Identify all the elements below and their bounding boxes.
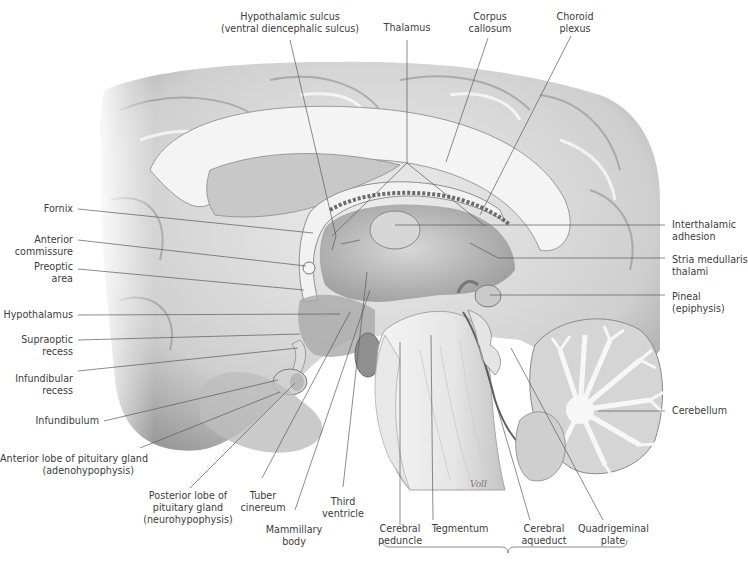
- label-line: Fornix: [0, 203, 73, 215]
- label-line: aqueduct: [520, 535, 568, 547]
- label-line: plate: [578, 535, 648, 547]
- label-line: plexus: [552, 23, 598, 35]
- label-line: Choroid: [552, 11, 598, 23]
- label-line: adhesion: [672, 231, 736, 243]
- label-mammillary-body: Mammillary body: [262, 524, 326, 548]
- label-hypothalamus: Hypothalamus: [0, 309, 73, 321]
- label-posterior-lobe-pituitary: Posterior lobe of pituitary gland (neuro…: [138, 490, 238, 526]
- label-tuber-cinereum: Tuber cinereum: [235, 490, 291, 514]
- label-line: Preoptic: [0, 261, 73, 273]
- label-line: Stria medullaris: [672, 254, 748, 266]
- label-line: recess: [0, 385, 73, 397]
- label-cerebral-peduncle: Cerebral peduncle: [375, 523, 425, 547]
- label-hypothalamic-sulcus: Hypothalamic sulcus (ventral diencephali…: [215, 11, 365, 35]
- label-pineal: Pineal (epiphysis): [672, 291, 725, 315]
- label-line: (ventral diencephalic sulcus): [215, 23, 365, 35]
- label-line: Interthalamic: [672, 219, 736, 231]
- label-line: callosum: [465, 23, 515, 35]
- label-line: Pineal: [672, 291, 725, 303]
- posterior-pituitary: [290, 373, 304, 391]
- label-anterior-commissure: Anterior commissure: [0, 234, 73, 258]
- label-line: Hypothalamic sulcus: [215, 11, 365, 23]
- label-anterior-lobe-pituitary: Anterior lobe of pituitary gland (adenoh…: [0, 453, 134, 477]
- label-line: ventricle: [315, 508, 371, 520]
- label-preoptic-area: Preoptic area: [0, 261, 73, 285]
- label-line: Anterior lobe of pituitary gland: [0, 453, 134, 465]
- artist-signature: Voll: [470, 479, 487, 489]
- anterior-commissure: [303, 262, 315, 274]
- label-line: peduncle: [375, 535, 425, 547]
- label-corpus-callosum: Corpus callosum: [465, 11, 515, 35]
- label-line: Thalamus: [375, 22, 439, 34]
- label-line: Cerebellum: [672, 405, 727, 417]
- label-line: (epiphysis): [672, 303, 725, 315]
- label-line: Tegmentum: [430, 523, 490, 535]
- label-line: Mammillary: [262, 524, 326, 536]
- label-tegmentum: Tegmentum: [430, 523, 490, 535]
- label-interthalamic-adhesion: Interthalamic adhesion: [672, 219, 736, 243]
- interthalamic-adhesion: [370, 211, 420, 249]
- label-infundibular-recess: Infundibular recess: [0, 373, 73, 397]
- label-line: Hypothalamus: [0, 309, 73, 321]
- label-line: Corpus: [465, 11, 515, 23]
- label-thalamus: Thalamus: [375, 22, 439, 34]
- label-line: recess: [0, 346, 73, 358]
- label-line: (adenohypophysis): [0, 465, 134, 477]
- label-line: Third: [315, 496, 371, 508]
- label-cerebral-aqueduct: Cerebral aqueduct: [520, 523, 568, 547]
- label-line: cinereum: [235, 502, 291, 514]
- label-line: (neurohypophysis): [138, 514, 238, 526]
- label-supraoptic-recess: Supraoptic recess: [0, 334, 73, 358]
- label-line: body: [262, 536, 326, 548]
- label-fornix: Fornix: [0, 203, 73, 215]
- label-quadrigeminal-plate: Quadrigeminal plate: [578, 523, 648, 547]
- label-cerebellum: Cerebellum: [672, 405, 727, 417]
- label-third-ventricle: Third ventricle: [315, 496, 371, 520]
- label-line: commissure: [0, 246, 73, 258]
- label-line: Infundibulum: [0, 415, 99, 427]
- pineal-gland: [475, 285, 501, 307]
- label-line: Posterior lobe of: [138, 490, 238, 502]
- label-line: Anterior: [0, 234, 73, 246]
- label-line: pituitary gland: [138, 502, 238, 514]
- label-infundibulum: Infundibulum: [0, 415, 99, 427]
- label-choroid-plexus: Choroid plexus: [552, 11, 598, 35]
- label-stria-medullaris: Stria medullaris thalami: [672, 254, 748, 278]
- label-line: Quadrigeminal: [578, 523, 648, 535]
- cerebellum: [516, 319, 664, 481]
- label-line: Cerebral: [520, 523, 568, 535]
- label-line: Supraoptic: [0, 334, 73, 346]
- label-line: Infundibular: [0, 373, 73, 385]
- label-line: Tuber: [235, 490, 291, 502]
- label-line: Cerebral: [375, 523, 425, 535]
- label-line: thalami: [672, 266, 748, 278]
- label-line: area: [0, 273, 73, 285]
